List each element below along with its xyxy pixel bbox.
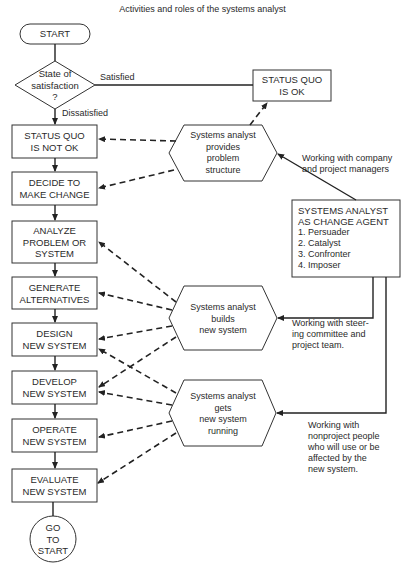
hex-line: builds: [169, 314, 277, 326]
node-line: SYSTEM: [12, 248, 97, 260]
design-text: DESIGN NEW SYSTEM: [12, 328, 97, 351]
node-line: DESIGN: [12, 328, 97, 340]
node-line: GENERATE: [12, 282, 97, 294]
steering-label: Working with steer- ing committee and pr…: [292, 318, 369, 351]
node-line: TO: [30, 534, 76, 546]
dissatisfied-label: Dissatisfied: [62, 108, 108, 119]
node-line: NEW SYSTEM: [12, 436, 97, 448]
label-line: nonproject people: [308, 431, 380, 442]
node-line: PROBLEM OR: [12, 237, 97, 249]
hex-line: problem: [169, 153, 277, 165]
managers-label: Working with company and project manager…: [302, 153, 392, 175]
node-line: NEW SYSTEM: [12, 486, 97, 498]
label-line: Working with steer-: [292, 318, 369, 329]
status-ok-text: STATUS QUO IS OK: [253, 74, 331, 97]
node-line: NEW SYSTEM: [12, 340, 97, 352]
node-line: EVALUATE: [12, 474, 97, 486]
node-line: GO: [30, 522, 76, 534]
agent-role: 4. Imposer: [298, 260, 389, 271]
node-line: ANALYZE: [12, 225, 97, 237]
label-line: Working with company: [302, 153, 392, 164]
node-line: NEW SYSTEM: [12, 388, 97, 400]
node-line: DECIDE TO: [12, 177, 97, 189]
hex-line: structure: [169, 165, 277, 177]
hex-line: Systems analyst: [169, 302, 277, 314]
node-line: DEVELOP: [12, 376, 97, 388]
label-line: ing committee and: [292, 329, 369, 340]
change-agent-text: SYSTEMS ANALYST AS CHANGE AGENT 1. Persu…: [298, 205, 389, 271]
agent-role: 1. Persuader: [298, 227, 389, 238]
satisfied-label: Satisfied: [100, 72, 135, 83]
agent-heading: SYSTEMS ANALYST: [298, 205, 389, 216]
hex-line: new system: [169, 325, 277, 337]
start-label: START: [20, 28, 90, 40]
agent-role: 2. Catalyst: [298, 238, 389, 249]
hex-line: Systems analyst: [169, 391, 277, 403]
decision-line: ?: [15, 91, 95, 103]
node-line: IS OK: [253, 86, 331, 98]
operate-text: OPERATE NEW SYSTEM: [12, 424, 97, 447]
analyze-text: ANALYZE PROBLEM OR SYSTEM: [12, 225, 97, 260]
generate-text: GENERATE ALTERNATIVES: [12, 282, 97, 305]
node-line: START: [30, 545, 76, 557]
node-line: OPERATE: [12, 424, 97, 436]
decision-line: State of: [15, 68, 95, 80]
node-line: ALTERNATIVES: [12, 294, 97, 306]
label-line: Working with: [308, 420, 380, 431]
decide-text: DECIDE TO MAKE CHANGE: [12, 177, 97, 200]
label-line: who will use or be: [308, 442, 380, 453]
node-line: STATUS QUO: [12, 130, 97, 142]
hex-line: new system: [169, 414, 277, 426]
decision-text: State of satisfaction ?: [15, 68, 95, 103]
label-line: and project managers: [302, 164, 392, 175]
develop-text: DEVELOP NEW SYSTEM: [12, 376, 97, 399]
label-line: affected by the: [308, 453, 380, 464]
goto-start-text: GO TO START: [30, 522, 76, 557]
hex-line: provides: [169, 142, 277, 154]
decision-line: satisfaction: [15, 80, 95, 92]
agent-heading: AS CHANGE AGENT: [298, 216, 389, 227]
node-line: IS NOT OK: [12, 142, 97, 154]
label-line: project team.: [292, 340, 369, 351]
node-line: MAKE CHANGE: [12, 189, 97, 201]
node-line: STATUS QUO: [253, 74, 331, 86]
hex-line: gets: [169, 403, 277, 415]
status-not-ok-text: STATUS QUO IS NOT OK: [12, 130, 97, 153]
nonproject-label: Working with nonproject people who will …: [308, 420, 380, 475]
hex-problem-structure-text: Systems analyst provides problem structu…: [169, 130, 277, 176]
hex-line: Systems analyst: [169, 130, 277, 142]
agent-role: 3. Confronter: [298, 249, 389, 260]
evaluate-text: EVALUATE NEW SYSTEM: [12, 474, 97, 497]
hex-gets-running-text: Systems analyst gets new system running: [169, 391, 277, 437]
label-line: new system.: [308, 464, 380, 475]
hex-builds-system-text: Systems analyst builds new system: [169, 302, 277, 337]
hex-line: running: [169, 426, 277, 438]
